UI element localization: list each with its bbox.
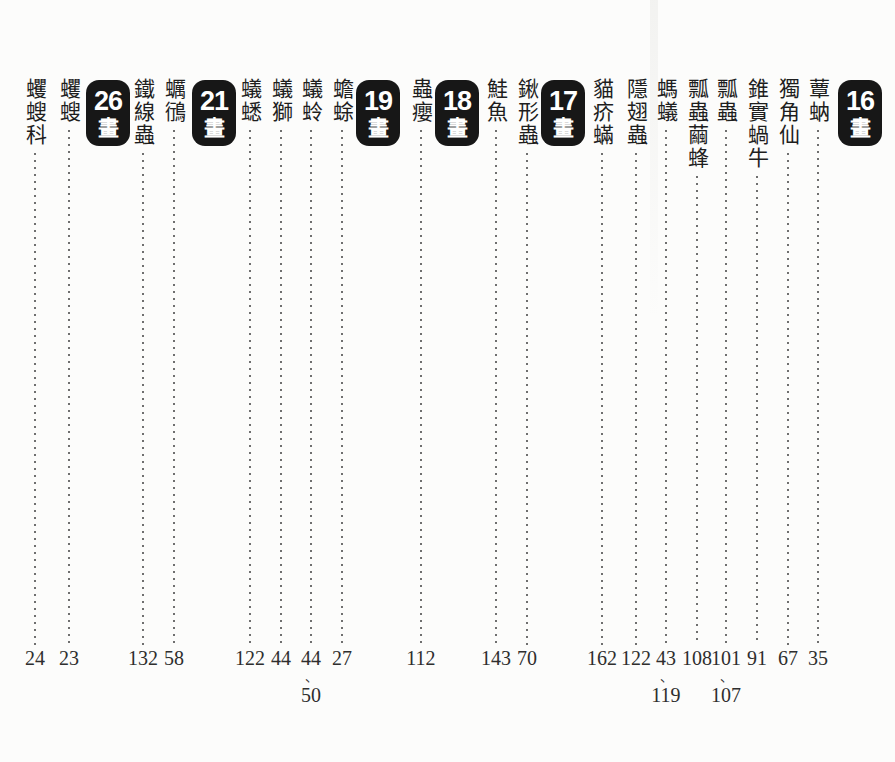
page-separator: 、 (281, 669, 341, 684)
dotted-leader-line (280, 130, 282, 645)
page-number: 162 (572, 648, 632, 668)
dotted-leader-line (142, 153, 144, 645)
index-column: 貓疥蟎162 (572, 78, 632, 645)
page-references: 132 (113, 648, 173, 668)
entry-stack: 蠼螋科 (23, 78, 47, 645)
page-separator: 、 (636, 669, 696, 684)
entry-stack: 鐵線蟲 (131, 78, 155, 645)
dotted-leader-line (495, 130, 497, 645)
page-number: 24 (5, 648, 65, 668)
page-number: 132 (113, 648, 173, 668)
badge-stroke-number: 16 (846, 88, 874, 115)
index-term: 鮭魚 (484, 78, 508, 124)
index-column: 鐵線蟲132 (113, 78, 173, 645)
entry-stack: 蟻蟋 (238, 78, 262, 645)
page-references: 143 (466, 648, 526, 668)
dotted-leader-line (696, 176, 698, 645)
index-term: 蠼螋科 (23, 78, 47, 147)
index-page: 16畫蕈蚋35獨角仙67錐實蝸牛91瓢蟲101、107瓢蟲繭蜂108螞蟻43、1… (0, 0, 895, 762)
dotted-leader-line (526, 153, 528, 645)
dotted-leader-line (173, 130, 175, 645)
page-separator: 、 (696, 669, 756, 684)
page-number: 112 (391, 648, 451, 668)
badge-stroke-character: 畫 (98, 117, 119, 138)
entry-stack: 蟲癭 (409, 78, 433, 645)
index-column: 鮭魚143 (466, 78, 526, 645)
entry-stack: 鮭魚 (484, 78, 508, 645)
index-column: 蟲癭112 (391, 78, 451, 645)
dotted-leader-line (341, 130, 343, 645)
dotted-leader-line (420, 130, 422, 645)
page-references: 112 (391, 648, 451, 668)
badge-stroke-number: 21 (200, 88, 228, 115)
index-term: 貓疥蟎 (590, 78, 614, 147)
badge-stroke-character: 畫 (204, 117, 225, 138)
dotted-leader-line (756, 176, 758, 645)
dotted-leader-line (34, 153, 36, 645)
page-references: 122 (220, 648, 280, 668)
dotted-leader-line (635, 153, 637, 645)
page-references: 24 (5, 648, 65, 668)
page-number: 107 (696, 685, 756, 705)
entry-stack: 貓疥蟎 (590, 78, 614, 645)
page-number: 122 (220, 648, 280, 668)
dotted-leader-line (787, 153, 789, 645)
page-number: 50 (281, 685, 341, 705)
page-number: 143 (466, 648, 526, 668)
index-term: 蟲癭 (409, 78, 433, 124)
page-references: 162 (572, 648, 632, 668)
dotted-leader-line (249, 130, 251, 645)
index-column: 蟻蟋122 (220, 78, 280, 645)
dotted-leader-line (601, 153, 603, 645)
index-column: 蠼螋科24 (5, 78, 65, 645)
dotted-leader-line (68, 130, 70, 645)
badge-stroke-character: 畫 (850, 117, 871, 138)
page-number: 119 (636, 685, 696, 705)
